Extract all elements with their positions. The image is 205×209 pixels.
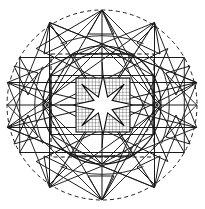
- central-eight-point-star: [73, 75, 133, 135]
- geometric-diagram-figure: [0, 0, 205, 209]
- diagram-canvas: [0, 0, 205, 209]
